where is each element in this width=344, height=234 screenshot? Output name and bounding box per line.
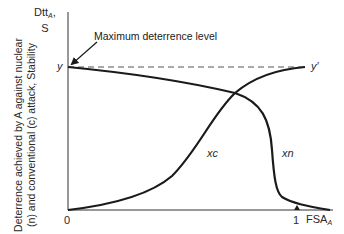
curve-xc-label: xc [207,147,218,159]
curve-xn-label: xn [282,147,294,159]
max-deterrence-arrow [72,42,97,64]
curve-xc [68,67,305,210]
x-axis-title-main: FSA [306,213,327,225]
x-tick-one: 1 [293,214,299,226]
max-deterrence-label: Maximum deterrence level [94,30,217,42]
x-tick-one-marker [294,205,300,210]
y-left-label: y [57,60,63,72]
x-tick-zero: 0 [64,214,70,226]
y-right-label: y′ [311,60,319,72]
curve-xn [68,67,330,210]
x-axis-title: FSAA [306,213,332,226]
x-axis-title-sub: A [327,219,332,226]
